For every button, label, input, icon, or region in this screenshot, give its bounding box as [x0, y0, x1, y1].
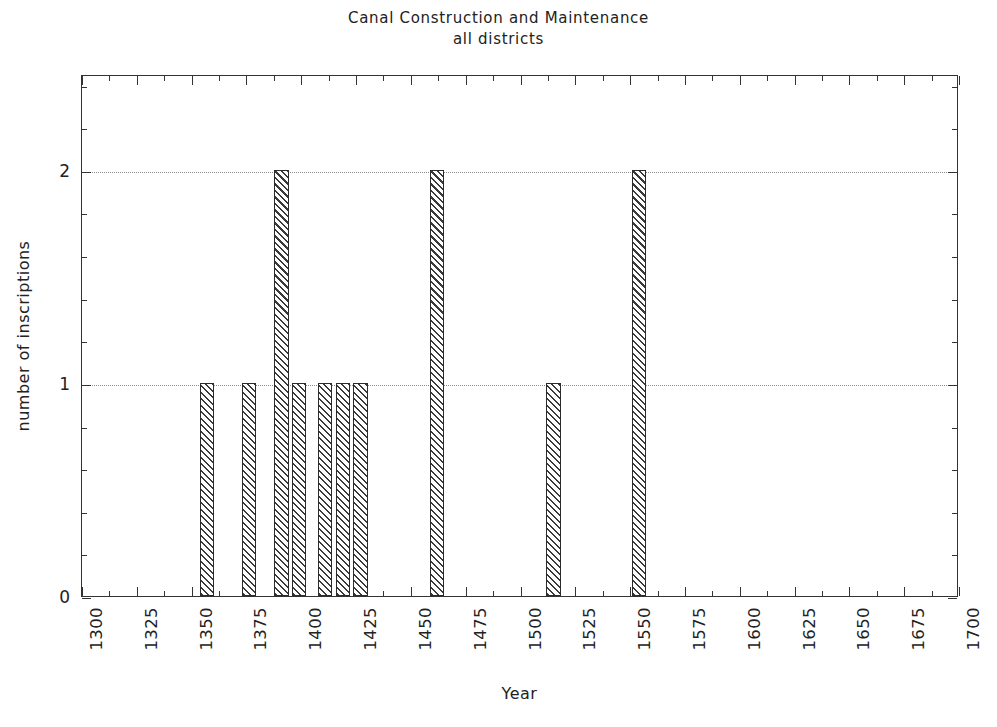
x-axis-tick	[521, 587, 522, 596]
x-axis-tick	[795, 587, 796, 596]
bar	[632, 170, 646, 596]
x-axis-tick-label: 1300	[87, 607, 106, 651]
x-axis-tick-label: 1350	[197, 607, 216, 651]
x-axis-tick-label: 1425	[361, 607, 380, 651]
x-axis-minor-tick	[438, 76, 439, 81]
x-axis-minor-tick	[329, 76, 330, 81]
plot-inner	[82, 76, 957, 596]
x-axis-minor-tick	[164, 76, 165, 81]
x-axis-minor-tick	[767, 76, 768, 81]
x-axis-minor-tick	[822, 591, 823, 596]
x-axis-tick	[246, 76, 247, 85]
bar	[353, 383, 367, 596]
bar	[546, 383, 560, 596]
chart-title: Canal Construction and Maintenance	[0, 8, 997, 29]
x-axis-title: Year	[81, 684, 958, 703]
y-axis-minor-tick	[952, 470, 957, 471]
x-axis-tick	[82, 76, 83, 85]
x-axis-minor-tick	[493, 591, 494, 596]
x-axis-tick-label: 1375	[251, 607, 270, 651]
x-axis-tick-label: 1325	[142, 607, 161, 651]
x-axis-tick	[466, 587, 467, 596]
y-axis-tick-label: 0	[59, 587, 70, 607]
plot-area	[81, 75, 958, 597]
x-axis-minor-tick	[877, 76, 878, 81]
x-axis-tick-label: 1600	[745, 607, 764, 651]
x-axis-tick	[575, 76, 576, 85]
y-axis-minor-tick	[82, 513, 87, 514]
x-axis-minor-tick	[109, 591, 110, 596]
gridline-y	[82, 172, 957, 173]
x-axis-minor-tick	[274, 76, 275, 81]
x-axis-tick	[356, 76, 357, 85]
x-axis-tick-label: 1575	[690, 607, 709, 651]
bar	[242, 383, 256, 596]
x-axis-minor-tick	[603, 591, 604, 596]
x-axis-tick	[959, 76, 960, 85]
y-axis-minor-tick	[952, 87, 957, 88]
x-axis-tick-label: 1700	[964, 607, 983, 651]
x-axis-tick	[959, 587, 960, 596]
y-axis-minor-tick	[82, 470, 87, 471]
y-axis-minor-tick	[952, 513, 957, 514]
x-axis-minor-tick	[383, 76, 384, 81]
bar	[200, 383, 214, 596]
y-axis-minor-tick	[82, 129, 87, 130]
y-axis-tick-label: 1	[59, 374, 70, 394]
y-axis-minor-tick	[82, 555, 87, 556]
x-axis-minor-tick	[712, 591, 713, 596]
bar	[274, 170, 288, 596]
x-axis-minor-tick	[219, 591, 220, 596]
y-axis-minor-tick	[82, 428, 87, 429]
x-axis-tick-label: 1650	[854, 607, 873, 651]
x-axis-tick	[192, 587, 193, 596]
y-axis-title: number of inscriptions	[10, 75, 36, 597]
x-axis-minor-tick	[383, 591, 384, 596]
y-axis-minor-tick	[82, 342, 87, 343]
y-axis-minor-tick	[82, 214, 87, 215]
x-axis-minor-tick	[767, 591, 768, 596]
bar	[318, 383, 332, 596]
x-axis-minor-tick	[548, 76, 549, 81]
y-axis-minor-tick	[952, 428, 957, 429]
x-axis-tick	[740, 587, 741, 596]
y-axis-tick-label: 2	[59, 161, 70, 181]
y-axis-minor-tick	[952, 300, 957, 301]
y-axis-tick	[82, 172, 91, 173]
x-axis-tick	[904, 587, 905, 596]
x-axis-minor-tick	[712, 76, 713, 81]
x-axis-minor-tick	[219, 76, 220, 81]
x-axis-minor-tick	[658, 591, 659, 596]
x-axis-tick-label: 1625	[800, 607, 819, 651]
x-axis-tick	[685, 76, 686, 85]
chart-subtitle: all districts	[0, 29, 997, 50]
x-axis-tick	[521, 76, 522, 85]
x-axis-tick	[849, 76, 850, 85]
y-axis-tick	[948, 385, 957, 386]
x-axis-tick	[575, 587, 576, 596]
x-axis-tick-label: 1500	[526, 607, 545, 651]
x-axis-tick	[849, 587, 850, 596]
x-axis-tick	[137, 76, 138, 85]
x-axis-tick	[137, 587, 138, 596]
x-axis-tick	[685, 587, 686, 596]
y-axis-minor-tick	[82, 257, 87, 258]
x-axis-tick	[466, 76, 467, 85]
bar	[292, 383, 306, 596]
x-axis-minor-tick	[658, 76, 659, 81]
x-axis-tick	[740, 76, 741, 85]
y-axis-minor-tick	[952, 257, 957, 258]
y-axis-minor-tick	[952, 214, 957, 215]
x-axis-tick-label: 1475	[471, 607, 490, 651]
x-axis-tick	[82, 587, 83, 596]
y-axis-minor-tick	[952, 555, 957, 556]
y-axis-tick-labels: 012	[44, 75, 70, 597]
chart-figure: Canal Construction and Maintenance all d…	[0, 0, 997, 727]
x-axis-minor-tick	[877, 591, 878, 596]
x-axis-tick	[795, 76, 796, 85]
y-axis-tick	[948, 172, 957, 173]
x-axis-tick	[411, 587, 412, 596]
y-axis-minor-tick	[952, 129, 957, 130]
y-axis-tick	[82, 385, 91, 386]
y-axis-minor-tick	[82, 87, 87, 88]
